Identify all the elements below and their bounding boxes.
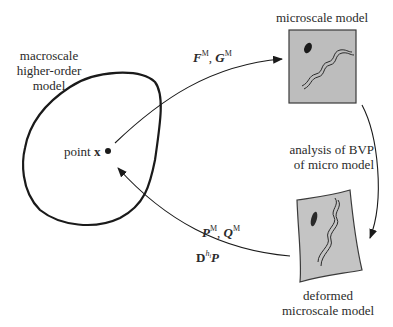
sup-M: M (233, 224, 240, 233)
operator-D: D (196, 250, 205, 265)
var-F: F (193, 50, 202, 65)
deformed-model-shape (297, 190, 362, 282)
macroscale-model-label: macroscale higher-order model (8, 48, 90, 93)
label-line: higher-order (8, 63, 90, 78)
sup-M: M (225, 49, 232, 58)
microscale-model-label: microscale model (276, 10, 368, 25)
point-x-dot (105, 148, 111, 154)
downscale-arrow (115, 59, 282, 143)
sup-M: M (210, 224, 217, 233)
deformed-model-label: deformed microscale model (272, 288, 384, 318)
point-label-text: point (64, 144, 94, 159)
upscale-arrow (118, 168, 290, 256)
label-line: microscale model (272, 303, 384, 318)
var-P: P (211, 250, 219, 265)
label-line: analysis of BVP (270, 142, 374, 157)
analysis-arrow-label: analysis of BVP of micro model (270, 142, 374, 172)
sup-M: M (202, 49, 209, 58)
label-line: macroscale (8, 48, 90, 63)
var-G: G (215, 50, 224, 65)
var-P: P (202, 225, 210, 240)
point-label-var: x (94, 144, 101, 159)
label-line: of micro model (270, 157, 374, 172)
upscale-arrow-label: PM, QM (202, 221, 240, 240)
microscale-model-square (289, 30, 356, 103)
var-Q: Q (224, 225, 233, 240)
label-line: model (8, 78, 90, 93)
point-x-label: point x (64, 144, 100, 159)
downscale-arrow-label: FM, GM (193, 46, 232, 65)
label-line: deformed (272, 288, 384, 303)
gradient-operator-label: DhiP (196, 246, 219, 265)
